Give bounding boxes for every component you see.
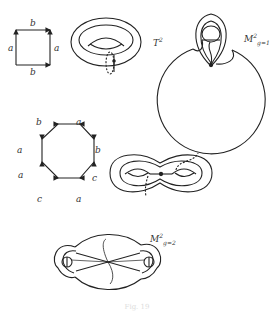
- square-polygon: [16, 30, 50, 65]
- octagon-edge-label-2: a: [76, 118, 81, 127]
- figure-caption: Fig. 19: [112, 303, 162, 311]
- genus1-label: M2g=1: [244, 33, 270, 46]
- octagon-polygon: [42, 124, 94, 178]
- square-top-label: b: [30, 19, 36, 28]
- genus2-label: M2g=2: [150, 233, 176, 246]
- figure-canvas: [0, 0, 274, 320]
- octagon-edge-label-8: a: [17, 146, 22, 155]
- torus-drawing: [71, 18, 141, 74]
- torus-label: T2: [153, 37, 163, 48]
- octagon-edge-label-5: a: [76, 195, 81, 204]
- octagon-edge-label-7: a: [18, 171, 23, 180]
- octagon-edge-label-4: c: [92, 174, 97, 183]
- octagon-edge-label-3: b: [95, 146, 101, 155]
- genus2-drawing: [54, 234, 160, 289]
- square-bottom-label: b: [30, 68, 36, 77]
- octagon-edge-label-1: b: [36, 118, 42, 127]
- double-torus-drawing: [110, 153, 212, 196]
- square-left-label: a: [8, 44, 13, 53]
- square-right-label: a: [54, 44, 59, 53]
- octagon-edge-label-6: c: [37, 195, 42, 204]
